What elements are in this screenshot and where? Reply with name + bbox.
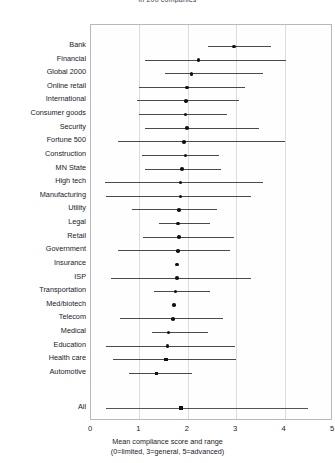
mean-point [164,358,167,361]
range-bar [105,182,263,183]
data-row [91,46,331,47]
mean-point [185,126,189,130]
mean-point [184,99,188,103]
y-axis-label-health-care: Health care [2,354,86,362]
x-tick-3: 3 [233,424,237,433]
x-axis-caption: Mean compliance score and range (0=limit… [0,437,335,456]
y-axis-label-isp: ISP [2,273,86,281]
y-axis-label-international: International [2,95,86,103]
data-row [91,209,331,210]
data-row [91,408,331,409]
mean-point [232,45,236,49]
y-axis-label-insurance: Insurance [2,259,86,267]
y-axis-label-consumer-goods: Consumer goods [2,109,86,117]
data-row [91,169,331,170]
range-bar [118,250,231,251]
range-bar [106,408,308,409]
x-axis-label: Mean compliance score and range [0,437,335,447]
mean-point [175,263,179,267]
data-row [91,291,331,292]
data-row [91,60,331,61]
data-row [91,141,331,142]
mean-point [180,167,184,171]
range-bar [113,359,236,360]
y-axis-label-fortune-500: Fortune 500 [2,136,86,144]
mean-point [177,235,181,239]
mean-point [184,113,188,117]
data-row [91,373,331,374]
mean-point [167,331,171,335]
range-bar [129,373,192,374]
data-row [91,114,331,115]
data-row [91,278,331,279]
mean-point [179,406,182,409]
range-bar [142,155,219,156]
range-bar [118,141,285,142]
y-axis-label-retail: Retail [2,232,86,240]
y-axis-label-security: Security [2,123,86,131]
y-axis-label-global-2000: Global 2000 [2,68,86,76]
range-bar [139,87,245,88]
y-axis-label-online-retail: Online retail [2,82,86,90]
range-bar [132,209,217,210]
range-bar [111,278,250,279]
data-row [91,346,331,347]
data-row [91,128,331,129]
data-row [91,359,331,360]
data-row [91,87,331,88]
mean-point [155,372,158,375]
y-axis-label-bank: Bank [2,41,86,49]
y-axis-label-all: All [2,403,86,411]
mean-point [197,58,201,62]
mean-point [174,290,178,294]
mean-point [171,317,175,321]
data-row [91,318,331,319]
range-bar [106,346,236,347]
range-bar [152,332,209,333]
data-row [91,100,331,101]
mean-point [176,249,180,253]
y-axis-label-automotive: Automotive [2,368,86,376]
mean-point [182,140,186,144]
mean-point [179,195,183,199]
y-axis-label-financial: Financial [2,55,86,63]
range-bar [165,73,263,74]
data-row [91,305,331,306]
y-axis-label-legal: Legal [2,218,86,226]
range-bar [145,60,285,61]
y-axis-label-manufacturing: Manufacturing [2,191,86,199]
mean-point [176,222,180,226]
chart-title: in 200 companies [0,0,335,3]
y-axis-label-government: Government [2,245,86,253]
x-tick-2: 2 [185,424,189,433]
mean-point [175,276,179,280]
y-axis-label-med-biotech: Med/biotech [2,300,86,308]
x-tick-4: 4 [281,424,285,433]
mean-point [185,86,189,90]
x-tick-5: 5 [330,424,334,433]
x-axis-label-note: (0=limited, 3=general, 5=advanced) [0,447,335,457]
plot-inner [91,25,331,419]
mean-point [172,303,176,307]
y-axis-label-mn-state: MN State [2,164,86,172]
y-axis-label-high-tech: High tech [2,177,86,185]
range-bar [159,223,210,224]
data-row [91,250,331,251]
y-axis-label-construction: Construction [2,150,86,158]
data-row [91,264,331,265]
range-bar [154,291,210,292]
y-axis-label-telecom: Telecom [2,313,86,321]
mean-point [166,344,170,348]
y-axis-label-utility: Utility [2,204,86,212]
y-axis-label-transportation: Transportation [2,286,86,294]
x-tick-0: 0 [88,424,92,433]
data-row [91,237,331,238]
x-tick-1: 1 [136,424,140,433]
mean-point [179,181,183,185]
data-row [91,155,331,156]
data-row [91,223,331,224]
data-row [91,182,331,183]
plot-area [90,24,332,420]
range-bar [143,237,234,238]
mean-point [184,154,188,158]
